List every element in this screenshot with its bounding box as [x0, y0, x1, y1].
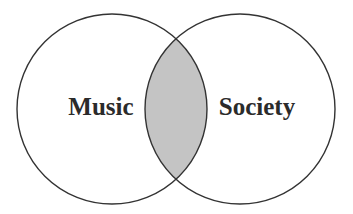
venn-label-society: Society — [219, 93, 296, 120]
venn-diagram: Music Society — [0, 0, 353, 214]
venn-label-music: Music — [68, 93, 133, 120]
